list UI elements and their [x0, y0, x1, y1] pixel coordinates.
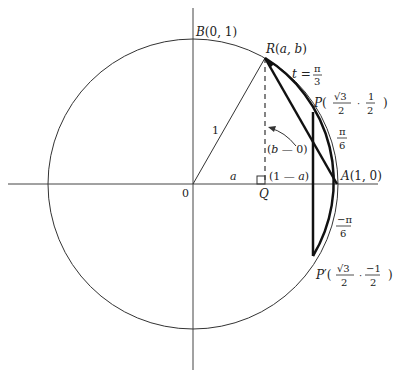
P-y-den: 2	[367, 105, 373, 116]
pi6-den: 6	[339, 140, 345, 151]
P-sep: ·	[357, 98, 360, 109]
Pp-y-den: 2	[370, 277, 376, 288]
label-1-minus-a: (1 — a)	[269, 170, 309, 183]
Pp-y-num: −1	[366, 263, 381, 274]
right-angle-marker	[257, 176, 265, 184]
label-P: P(	[313, 96, 327, 110]
label-b-minus-0: (b — 0)	[267, 143, 308, 156]
P-y-num: 1	[368, 91, 374, 102]
arc-R-to-Pprime	[265, 58, 334, 256]
negpi6-den: 6	[340, 228, 346, 239]
pointer-arrowhead	[268, 126, 276, 132]
pi6-num: π	[339, 126, 346, 137]
Pp-x-den: 2	[341, 277, 347, 288]
P-x-den: 2	[338, 105, 344, 116]
label-R: R(a, b)	[265, 42, 307, 56]
negpi6-num: −π	[337, 214, 352, 225]
label-radius: 1	[212, 124, 219, 137]
Pp-sep: ·	[359, 270, 362, 281]
Pp-x-num: √3	[337, 263, 350, 274]
label-t: t =	[292, 67, 311, 81]
label-B: B(0, 1)	[195, 25, 237, 39]
t-num: π	[314, 63, 321, 74]
unit-circle-diagram: B(0, 1) R(a, b) t = π 3 P( √3 2 · 1 2 ) …	[0, 0, 402, 377]
Pp-close: )	[388, 268, 393, 282]
label-Q: Q	[259, 187, 269, 201]
P-close: )	[383, 96, 388, 110]
label-A: A(1, 0)	[340, 169, 382, 183]
radius-OR	[193, 58, 265, 184]
label-a: a	[230, 170, 237, 183]
label-origin: 0	[182, 187, 189, 200]
t-den: 3	[314, 76, 320, 87]
P-x-num: √3	[334, 91, 347, 102]
label-Pprime: P′(	[315, 268, 331, 282]
